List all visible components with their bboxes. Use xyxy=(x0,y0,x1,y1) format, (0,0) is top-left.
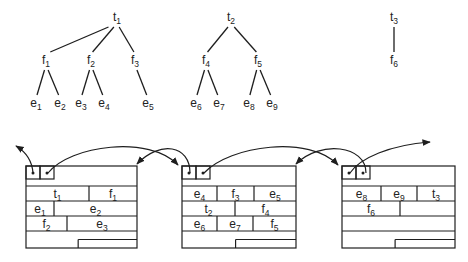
tree-leaf-node: e9 xyxy=(266,96,278,112)
tree-leaf-node: e1 xyxy=(30,96,42,112)
page-entry-cell: e6 xyxy=(194,217,206,233)
pointer-dot xyxy=(362,172,365,175)
trees-group: t1f1e1e2f2e3e4f3e5t2f4e6e7f5e8e9t3f6 xyxy=(30,10,398,112)
tree-inner-node: f3 xyxy=(131,53,139,69)
tree-t1: t1f1e1e2f2e3e4f3e5 xyxy=(30,10,154,112)
tree-inner-node: f1 xyxy=(42,53,50,69)
page-entry-cell: e2 xyxy=(90,202,102,218)
tree-t2: t2f4e6e7f5e8e9 xyxy=(190,10,278,112)
tree-edge xyxy=(93,27,114,52)
page-1: t1f1e1e2f2e3 xyxy=(26,166,137,248)
page-entry-cell: t3 xyxy=(432,187,440,203)
tree-edge xyxy=(50,27,108,52)
page-entry-cell: f3 xyxy=(231,187,239,203)
tree-leaf-node: e7 xyxy=(213,96,225,112)
page-3: e8e9t3f6 xyxy=(342,166,455,248)
tree-leaf-node: e8 xyxy=(243,96,255,112)
page-entry-cell: e9 xyxy=(393,187,405,203)
tree-edge xyxy=(93,70,103,95)
tree-edge xyxy=(208,27,229,52)
tree-root-node: t3 xyxy=(390,10,398,26)
page-entry-cell: e7 xyxy=(229,217,241,233)
page-entry-cell: f5 xyxy=(270,217,278,233)
tree-edge xyxy=(234,27,256,52)
tree-edge xyxy=(260,70,271,95)
page-entry-cell: e4 xyxy=(194,187,206,203)
page-border xyxy=(182,166,296,248)
tree-edge xyxy=(208,70,218,95)
page3-next-pointer-arrow xyxy=(350,142,430,173)
tree-leaf-node: e3 xyxy=(75,96,87,112)
tree-edge xyxy=(48,70,59,95)
tree-and-page-diagram: t1f1e1e2f2e3e4f3e5t2f4e6e7f5e8e9t3f6 t1f… xyxy=(0,0,468,262)
tree-edge xyxy=(137,70,147,95)
tree-root-node: t1 xyxy=(113,10,121,26)
tree-leaf-node: e4 xyxy=(98,96,110,112)
page-entry-cell: f1 xyxy=(109,187,117,203)
tree-edge xyxy=(37,70,45,95)
tree-edge xyxy=(197,70,205,95)
tree-inner-node: f4 xyxy=(202,53,210,69)
page-entry-cell: t2 xyxy=(204,202,212,218)
tree-inner-node: f2 xyxy=(87,53,95,69)
tree-t3: t3f6 xyxy=(390,10,398,69)
tree-edge xyxy=(119,27,134,52)
page-border xyxy=(342,166,455,248)
tree-leaf-node: e6 xyxy=(190,96,202,112)
tree-edge xyxy=(82,70,90,95)
page-entry-cell: f2 xyxy=(42,217,50,233)
tree-inner-node: f5 xyxy=(254,53,262,69)
page-entry-cell: f6 xyxy=(367,202,375,218)
page-entry-cell: e5 xyxy=(269,187,281,203)
page-2: e4f3e5t2f4e6e7f5 xyxy=(182,166,296,248)
tree-inner-node: f6 xyxy=(390,53,398,69)
tree-root-node: t2 xyxy=(227,10,235,26)
page1-prev-pointer-arrow xyxy=(16,146,33,173)
tree-leaf-node: e2 xyxy=(54,96,66,112)
pages-group: t1f1e1e2f2e3e4f3e5t2f4e6e7f5e8e9t3f6 xyxy=(26,166,455,248)
tree-leaf-node: e5 xyxy=(142,96,154,112)
page-entry-cell: f4 xyxy=(261,202,269,218)
page-entry-cell: e3 xyxy=(96,217,108,233)
page-entry-cell: t1 xyxy=(53,187,61,203)
page-entry-cell: e1 xyxy=(34,202,46,218)
tree-edge xyxy=(250,70,257,95)
page-links-group xyxy=(16,142,430,173)
page-entry-cell: e8 xyxy=(356,187,368,203)
